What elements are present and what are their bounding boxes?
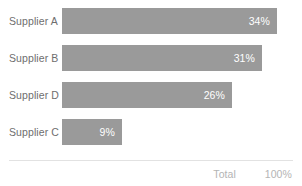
total-row: Total 100% bbox=[0, 164, 302, 184]
bar-value-supplier-c: 9% bbox=[100, 126, 115, 138]
bar-rows: Supplier A 34% Supplier B 31% Supplier D… bbox=[0, 8, 302, 156]
horizontal-bar-chart: Supplier A 34% Supplier B 31% Supplier D… bbox=[0, 0, 302, 186]
bar-track: 26% bbox=[62, 82, 302, 108]
bar-supplier-d[interactable]: 26% bbox=[62, 82, 232, 108]
bar-track: 31% bbox=[62, 45, 302, 71]
bar-supplier-c[interactable]: 9% bbox=[62, 119, 122, 145]
table-row[interactable]: Supplier A 34% bbox=[0, 8, 302, 34]
category-label-supplier-a: Supplier A bbox=[0, 8, 62, 34]
category-label-supplier-b: Supplier B bbox=[0, 45, 62, 71]
table-row[interactable]: Supplier B 31% bbox=[0, 45, 302, 71]
category-label-supplier-d: Supplier D bbox=[0, 82, 62, 108]
total-label: Total bbox=[213, 168, 236, 180]
bar-value-supplier-a: 34% bbox=[249, 15, 270, 27]
bar-track: 34% bbox=[62, 8, 302, 34]
bar-value-supplier-d: 26% bbox=[204, 89, 225, 101]
bar-value-supplier-b: 31% bbox=[234, 52, 255, 64]
table-row[interactable]: Supplier D 26% bbox=[0, 82, 302, 108]
table-row[interactable]: Supplier C 9% bbox=[0, 119, 302, 145]
total-value: 100% bbox=[258, 168, 292, 180]
footer-divider bbox=[9, 160, 293, 161]
category-label-supplier-c: Supplier C bbox=[0, 119, 62, 145]
bar-track: 9% bbox=[62, 119, 302, 145]
bar-supplier-b[interactable]: 31% bbox=[62, 45, 262, 71]
bar-supplier-a[interactable]: 34% bbox=[62, 8, 277, 34]
